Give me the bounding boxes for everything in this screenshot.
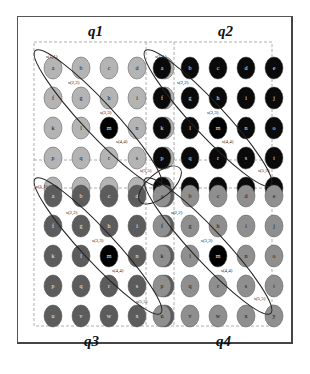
node-q3-v: v xyxy=(72,305,90,327)
svg-text:c: c xyxy=(108,65,111,71)
node-q2-f: f xyxy=(153,87,171,109)
diagonal-label: s(5,5) xyxy=(254,296,266,302)
node-q1-l: l xyxy=(72,117,90,139)
node-q4-o: o xyxy=(265,245,283,267)
node-q1-k: k xyxy=(44,117,62,139)
diagonal-label: s(2,2) xyxy=(171,210,183,216)
node-q1-c: c xyxy=(100,57,118,79)
node-q1-m: m xyxy=(100,117,118,139)
quadrant-title-q2: q2 xyxy=(218,23,234,39)
node-q4-d: d xyxy=(237,185,255,207)
node-q4-n: n xyxy=(237,245,255,267)
node-q4-f: f xyxy=(153,215,171,237)
diagonal-label: s(3,3) xyxy=(92,238,104,244)
diagonal-label: s(4,4) xyxy=(221,268,233,274)
node-q3-g: g xyxy=(72,215,90,237)
svg-text:k: k xyxy=(52,253,55,259)
node-q4-q: q xyxy=(181,275,199,297)
node-q3-q: q xyxy=(72,275,90,297)
quadrant-title-q1: q1 xyxy=(88,23,103,39)
node-q4-t: t xyxy=(265,275,283,297)
node-q4-l: l xyxy=(181,245,199,267)
node-q2-q: q xyxy=(181,147,199,169)
svg-text:n: n xyxy=(136,253,139,259)
svg-text:k: k xyxy=(52,125,55,131)
node-q2-t: t xyxy=(265,147,283,169)
svg-text:q: q xyxy=(80,283,83,289)
node-q4-j: j xyxy=(265,215,283,237)
diagonal-label: s(5,5) xyxy=(258,168,270,174)
node-q1-d: d xyxy=(128,57,146,79)
svg-text:j: j xyxy=(272,223,275,229)
svg-text:d: d xyxy=(136,193,139,199)
svg-text:a: a xyxy=(52,193,55,199)
svg-text:g: g xyxy=(189,95,192,101)
svg-text:x: x xyxy=(136,313,139,319)
svg-text:n: n xyxy=(136,125,139,131)
svg-text:u: u xyxy=(52,313,55,319)
svg-text:r: r xyxy=(108,283,110,289)
node-q3-u: u xyxy=(44,305,62,327)
svg-text:g: g xyxy=(189,223,192,229)
svg-text:f: f xyxy=(161,95,163,101)
svg-text:w: w xyxy=(107,313,112,319)
quadrant-diagram: q1 q2 q3 q4 abcdefghijklmnopqrstuvwxyabc… xyxy=(0,0,310,374)
svg-text:r: r xyxy=(217,283,219,289)
svg-text:r: r xyxy=(217,155,219,161)
svg-text:q: q xyxy=(189,283,192,289)
svg-text:b: b xyxy=(189,193,192,199)
diagonal-label: s(3,3) xyxy=(201,238,213,244)
node-q3-k: k xyxy=(44,245,62,267)
node-q2-s: s xyxy=(237,147,255,169)
svg-text:f: f xyxy=(52,95,54,101)
diagonal-labels: s(1,1)s(2,2)s(3,3)s(4,4)s(1,1)s(2,2)s(3,… xyxy=(36,54,270,305)
node-q2-g: g xyxy=(181,87,199,109)
node-q4-x: x xyxy=(237,305,255,327)
node-q4-w: w xyxy=(209,305,227,327)
diagonal-label: s(3,3) xyxy=(207,110,219,116)
svg-text:n: n xyxy=(245,125,248,131)
svg-text:u: u xyxy=(161,313,164,319)
node-q3-w: w xyxy=(100,305,118,327)
svg-text:d: d xyxy=(245,193,248,199)
svg-text:p: p xyxy=(52,155,55,161)
node-q4-c: c xyxy=(209,185,227,207)
svg-text:j: j xyxy=(272,95,275,101)
node-q3-p: p xyxy=(44,275,62,297)
svg-text:q: q xyxy=(189,155,192,161)
svg-text:h: h xyxy=(217,223,220,229)
svg-text:b: b xyxy=(80,65,83,71)
node-q4-e: e xyxy=(265,185,283,207)
node-q3-s: s xyxy=(128,275,146,297)
svg-text:p: p xyxy=(161,155,164,161)
node-q2-o: o xyxy=(265,117,283,139)
quadrant-title-q4: q4 xyxy=(216,333,232,349)
svg-text:d: d xyxy=(245,65,248,71)
svg-text:q: q xyxy=(80,155,83,161)
svg-text:e: e xyxy=(273,193,276,199)
svg-text:r: r xyxy=(108,155,110,161)
svg-text:g: g xyxy=(80,95,83,101)
node-q2-c: c xyxy=(209,57,227,79)
svg-text:a: a xyxy=(161,65,164,71)
node-q2-n: n xyxy=(237,117,255,139)
svg-text:f: f xyxy=(161,223,163,229)
node-q3-i: i xyxy=(128,215,146,237)
svg-text:n: n xyxy=(245,253,248,259)
node-q3-m: m xyxy=(100,245,118,267)
svg-text:x: x xyxy=(245,313,248,319)
node-q2-d: d xyxy=(237,57,255,79)
node-q1-p: p xyxy=(44,147,62,169)
node-q4-b: b xyxy=(181,185,199,207)
node-q1-n: n xyxy=(128,117,146,139)
svg-text:d: d xyxy=(136,65,139,71)
node-q4-v: v xyxy=(181,305,199,327)
svg-text:h: h xyxy=(217,95,220,101)
svg-text:h: h xyxy=(108,95,111,101)
svg-text:o: o xyxy=(273,253,276,259)
node-q1-q: q xyxy=(72,147,90,169)
node-q4-y: y xyxy=(265,305,283,327)
node-q2-i: i xyxy=(237,87,255,109)
svg-text:e: e xyxy=(273,65,276,71)
node-q2-k: k xyxy=(153,117,171,139)
